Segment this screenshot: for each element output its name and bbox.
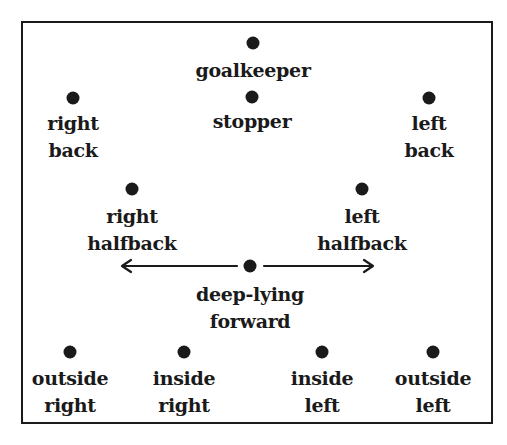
label-line: left [395, 392, 471, 419]
label-line: stopper [213, 108, 292, 135]
label-line: outside [32, 365, 108, 392]
label-line: outside [395, 365, 471, 392]
label-line: left [317, 203, 406, 230]
label-line: halfback [317, 230, 406, 257]
label-line: back [47, 137, 99, 164]
label-line: halfback [87, 230, 176, 257]
outside-left-dot-icon [427, 346, 440, 359]
inside-right-dot-icon [178, 346, 191, 359]
label-line: inside [153, 365, 216, 392]
label-line: right [87, 203, 176, 230]
inside-left-label: insideleft [291, 365, 354, 419]
deep-lying-forward-label: deep-lyingforward [196, 281, 304, 335]
deep-lying-forward-dot-icon [244, 260, 257, 273]
goalkeeper-label: goalkeeper [195, 57, 310, 84]
left-back-dot-icon [423, 92, 436, 105]
label-line: right [153, 392, 216, 419]
label-line: right [47, 110, 99, 137]
left-back-label: leftback [404, 110, 453, 164]
outside-right-dot-icon [64, 346, 77, 359]
goalkeeper-dot-icon [247, 37, 260, 50]
left-halfback-dot-icon [356, 183, 369, 196]
label-line: left [404, 110, 453, 137]
right-back-dot-icon [67, 92, 80, 105]
label-line: right [32, 392, 108, 419]
outside-left-label: outsideleft [395, 365, 471, 419]
outside-right-label: outsideright [32, 365, 108, 419]
label-line: back [404, 137, 453, 164]
stopper-dot-icon [246, 91, 259, 104]
inside-right-label: insideright [153, 365, 216, 419]
stopper-label: stopper [213, 108, 292, 135]
label-line: deep-lying [196, 281, 304, 308]
label-line: left [291, 392, 354, 419]
left-halfback-label: lefthalfback [317, 203, 406, 257]
label-line: goalkeeper [195, 57, 310, 84]
label-line: forward [196, 308, 304, 335]
right-back-label: rightback [47, 110, 99, 164]
right-halfback-label: righthalfback [87, 203, 176, 257]
right-halfback-dot-icon [126, 183, 139, 196]
label-line: inside [291, 365, 354, 392]
inside-left-dot-icon [316, 346, 329, 359]
